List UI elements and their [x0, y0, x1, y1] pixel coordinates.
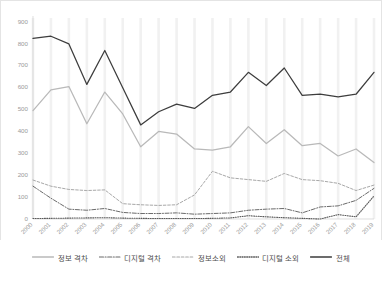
y-tick-label: 700	[18, 61, 29, 68]
x-tick-label: 2004	[91, 220, 106, 235]
x-tick-label: 2001	[37, 220, 52, 235]
series-line-0	[33, 87, 374, 163]
x-tick-label: 2015	[288, 220, 303, 235]
series-lines	[33, 36, 374, 219]
y-tick-label: 300	[18, 149, 29, 156]
series-line-3	[33, 196, 374, 219]
legend-swatch-0	[32, 253, 54, 261]
y-axis-labels: 0100200300400500600700800900	[18, 18, 29, 222]
chart-legend: 정보 격차디지털 격차정보소외디지털 소외전체	[0, 244, 382, 270]
legend-swatch-4	[310, 253, 332, 261]
legend-item-2[interactable]: 정보소외	[172, 252, 226, 263]
x-tick-label: 2018	[342, 220, 357, 235]
x-axis-labels: 2000200120022003200420052006200720082009…	[19, 220, 375, 235]
legend-label-1: 디지털 격차	[124, 252, 161, 263]
x-tick-label: 2005	[109, 220, 124, 235]
x-tick-label: 2011	[217, 220, 232, 235]
y-tick-label: 400	[18, 127, 29, 134]
legend-item-0[interactable]: 정보 격차	[32, 252, 88, 263]
x-tick-label: 2002	[55, 220, 70, 235]
legend-swatch-3	[237, 253, 259, 261]
y-tick-label: 500	[18, 105, 29, 112]
y-tick-label: 100	[18, 193, 29, 200]
legend-swatch-1	[99, 253, 121, 261]
series-line-2	[33, 171, 374, 205]
legend-label-0: 정보 격차	[58, 252, 88, 263]
x-tick-label: 2013	[252, 220, 267, 235]
x-tick-label: 2000	[19, 220, 34, 235]
x-tick-label: 2007	[145, 220, 160, 235]
x-tick-label: 2012	[235, 220, 250, 235]
chart-border	[1, 1, 382, 241]
legend-label-3: 디지털 소외	[262, 252, 299, 263]
x-tick-label: 2008	[163, 220, 178, 235]
legend-label-2: 정보소외	[198, 252, 226, 263]
x-tick-label: 2016	[306, 220, 321, 235]
legend-label-4: 전체	[336, 252, 350, 263]
x-tick-label: 2003	[73, 220, 88, 235]
x-tick-label: 2010	[199, 220, 214, 235]
y-tick-label: 900	[18, 18, 29, 25]
series-line-4	[33, 36, 374, 125]
x-tick-label: 2019	[360, 220, 375, 235]
line-chart: 0100200300400500600700800900 20002001200…	[0, 0, 382, 283]
legend-swatch-2	[172, 253, 194, 261]
plot-area: 0100200300400500600700800900 20002001200…	[0, 0, 382, 240]
x-tick-label: 2009	[181, 220, 196, 235]
y-tick-label: 200	[18, 171, 29, 178]
y-tick-label: 800	[18, 40, 29, 47]
x-tick-label: 2006	[127, 220, 142, 235]
legend-item-1[interactable]: 디지털 격차	[99, 252, 162, 263]
y-tick-label: 600	[18, 83, 29, 90]
chart-svg: 0100200300400500600700800900 20002001200…	[0, 0, 382, 240]
legend-item-3[interactable]: 디지털 소외	[237, 252, 300, 263]
x-tick-label: 2014	[270, 220, 285, 235]
x-tick-label: 2017	[324, 220, 339, 235]
legend-item-4[interactable]: 전체	[310, 252, 350, 263]
